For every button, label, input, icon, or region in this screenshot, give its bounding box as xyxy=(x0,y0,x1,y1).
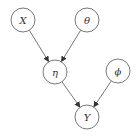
diagram-canvas: XθηϕY xyxy=(0,0,140,140)
node-X: X xyxy=(11,8,35,32)
node-Y: Y xyxy=(75,105,99,129)
edge-eta-to-Y xyxy=(62,82,80,107)
edge-theta-to-eta xyxy=(62,30,81,61)
node-phi: ϕ xyxy=(106,59,130,83)
edges xyxy=(29,30,111,107)
node-theta: θ xyxy=(75,8,99,32)
edge-X-to-eta xyxy=(29,30,48,61)
node-label: η xyxy=(52,67,58,78)
node-label: θ xyxy=(84,15,90,26)
node-label: X xyxy=(18,15,27,26)
node-eta: η xyxy=(43,60,67,84)
node-label: ϕ xyxy=(115,66,122,77)
nodes: XθηϕY xyxy=(11,8,130,129)
graph-svg: XθηϕY xyxy=(0,0,140,140)
edge-phi-to-Y xyxy=(94,81,111,107)
